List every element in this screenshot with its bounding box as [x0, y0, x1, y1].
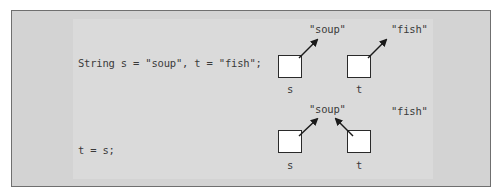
arrow-t-to-fish-1: [368, 40, 386, 58]
pointer-arrows: [0, 0, 502, 195]
arrow-s-to-soup-2: [299, 119, 317, 136]
arrow-s-to-soup-1: [299, 40, 317, 58]
arrow-t-to-soup-2: [336, 119, 353, 136]
